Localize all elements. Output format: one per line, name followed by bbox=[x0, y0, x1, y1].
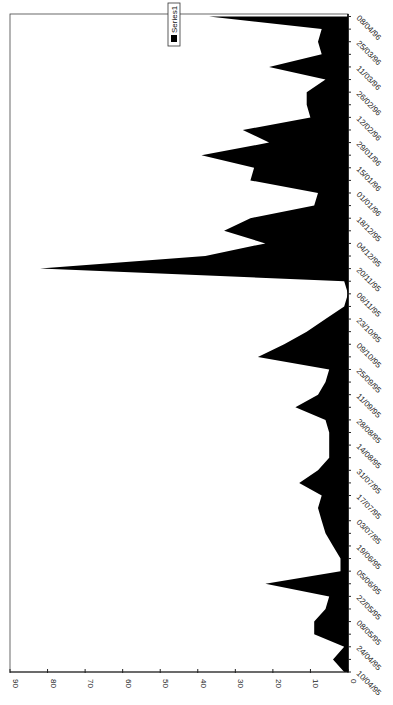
category-tick-label: 22/05/95 bbox=[355, 593, 384, 622]
value-tick-label: 70 bbox=[86, 679, 95, 688]
legend: Series1 bbox=[168, 3, 180, 46]
value-tick-label: 40 bbox=[199, 679, 208, 688]
category-tick-label: 23/10/95 bbox=[355, 316, 384, 345]
value-tick-label: 90 bbox=[11, 679, 20, 688]
category-tick-label: 25/03/96 bbox=[355, 39, 384, 68]
legend-swatch bbox=[171, 35, 177, 42]
category-tick-label: 08/05/95 bbox=[355, 619, 384, 648]
value-tick-label: 10 bbox=[311, 679, 320, 688]
category-tick-label: 31/07/95 bbox=[355, 467, 384, 496]
value-tick-label: 0 bbox=[349, 679, 358, 684]
category-tick-label: 11/09/95 bbox=[355, 392, 383, 420]
category-tick-label: 03/07/95 bbox=[355, 518, 384, 547]
category-tick-label: 11/03/96 bbox=[355, 64, 383, 92]
category-tick-label: 04/12/95 bbox=[355, 240, 384, 269]
category-tick-label: 17/07/95 bbox=[355, 493, 384, 522]
category-tick-label: 06/11/95 bbox=[355, 291, 383, 319]
category-tick-label: 15/01/96 bbox=[355, 165, 384, 194]
category-tick-label: 25/09/95 bbox=[355, 367, 384, 396]
category-tick-label: 19/06/95 bbox=[355, 543, 384, 572]
category-tick-label: 08/04/96 bbox=[355, 14, 384, 43]
value-tick-label: 80 bbox=[49, 679, 58, 688]
area-chart: 0102030405060708090 10/04/9524/04/9508/0… bbox=[0, 0, 393, 705]
legend-label: Series1 bbox=[170, 5, 179, 33]
category-tick-label: 05/06/95 bbox=[355, 568, 384, 597]
value-tick-label: 60 bbox=[124, 679, 133, 688]
value-axis: 0102030405060708090 bbox=[10, 669, 358, 688]
category-tick-label: 24/04/95 bbox=[355, 644, 384, 673]
category-tick-label: 12/02/96 bbox=[355, 114, 384, 143]
category-tick-label: 29/01/96 bbox=[355, 140, 384, 169]
category-tick-label: 01/01/96 bbox=[355, 190, 384, 219]
value-tick-label: 30 bbox=[236, 679, 245, 688]
value-tick-label: 20 bbox=[274, 679, 283, 688]
category-tick-label: 20/11/95 bbox=[355, 266, 383, 294]
category-tick-label: 09/10/95 bbox=[355, 341, 384, 370]
category-axis: 10/04/9524/04/9508/05/9522/05/9505/06/95… bbox=[348, 14, 383, 698]
category-tick-label: 26/02/96 bbox=[355, 89, 384, 118]
category-tick-label: 18/12/95 bbox=[355, 215, 384, 244]
value-tick-label: 50 bbox=[161, 679, 170, 688]
category-tick-label: 28/08/95 bbox=[355, 417, 384, 446]
category-tick-label: 14/08/95 bbox=[355, 442, 384, 471]
